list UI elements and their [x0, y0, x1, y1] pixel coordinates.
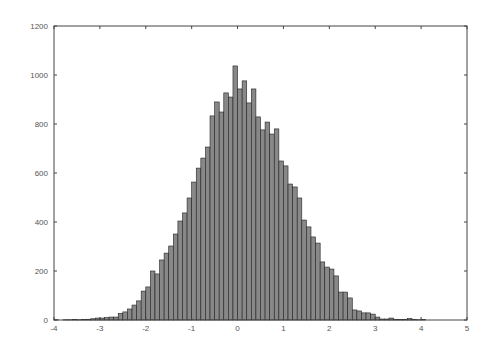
histogram-bar — [164, 253, 169, 320]
histogram-bar — [361, 313, 366, 320]
histogram-bar — [118, 313, 123, 320]
histogram-bar — [293, 187, 298, 320]
histogram-bar — [311, 237, 316, 320]
histogram-bar — [182, 213, 187, 320]
histogram-bar — [247, 103, 252, 320]
histogram-bar — [339, 292, 344, 320]
histogram-bar — [224, 93, 229, 320]
histogram-bar — [334, 276, 339, 320]
histogram-bar — [219, 112, 224, 320]
histogram-bar — [306, 227, 311, 320]
histogram-bar — [265, 122, 270, 320]
histogram-bar — [352, 310, 357, 320]
histogram-bar — [196, 168, 201, 320]
x-tick-label: -4 — [50, 324, 58, 333]
histogram-bar — [127, 309, 132, 320]
histogram-bar — [141, 291, 146, 320]
histogram-bar — [343, 292, 348, 320]
histogram-bar — [215, 102, 220, 320]
x-tick-label: 4 — [419, 324, 424, 333]
x-tick-label: 5 — [465, 324, 470, 333]
histogram-bar — [228, 97, 233, 320]
x-tick-label: -2 — [142, 324, 150, 333]
y-tick-label: 400 — [35, 218, 49, 227]
histogram-bar — [192, 182, 197, 320]
histogram-bar — [288, 184, 293, 320]
histogram-bar — [210, 116, 215, 320]
x-tick-label: 0 — [235, 324, 240, 333]
histogram-bar — [169, 246, 174, 320]
histogram-bar — [155, 274, 160, 320]
histogram-bar — [329, 269, 334, 320]
histogram-bar — [274, 129, 279, 320]
x-tick-label: 2 — [327, 324, 332, 333]
y-tick-label: 0 — [44, 316, 49, 325]
y-tick-label: 1000 — [30, 71, 48, 80]
histogram-bar — [187, 198, 192, 320]
histogram-bar — [242, 81, 247, 320]
y-tick-label: 1200 — [30, 22, 48, 31]
histogram-bar — [279, 161, 284, 320]
x-tick-label: 3 — [373, 324, 378, 333]
histogram-bar — [205, 147, 210, 320]
histogram-bar — [348, 298, 353, 320]
x-tick-label: -1 — [188, 324, 196, 333]
histogram-bar — [357, 311, 362, 320]
x-tick-label: 1 — [281, 324, 286, 333]
histogram-bar — [123, 312, 128, 320]
histogram-bar — [283, 166, 288, 320]
histogram-bar — [150, 271, 155, 320]
histogram-bars — [54, 66, 426, 320]
histogram-bar — [251, 89, 256, 320]
histogram-bar — [178, 221, 183, 320]
histogram-chart: -4-3-2-1012345 020040060080010001200 — [0, 0, 489, 354]
y-tick-label: 800 — [35, 120, 49, 129]
histogram-bar — [238, 89, 243, 320]
y-tick-label: 200 — [35, 267, 49, 276]
histogram-bar — [160, 260, 165, 320]
histogram-bar — [261, 130, 266, 320]
y-tick-label: 600 — [35, 169, 49, 178]
histogram-bar — [366, 313, 371, 320]
histogram-bar — [233, 66, 238, 320]
x-tick-label: -3 — [96, 324, 104, 333]
histogram-bar — [325, 267, 330, 320]
histogram-bar — [297, 198, 302, 320]
histogram-bar — [146, 287, 151, 320]
histogram-bar — [320, 262, 325, 320]
histogram-bar — [173, 234, 178, 320]
histogram-bar — [302, 220, 307, 320]
histogram-bar — [316, 243, 321, 320]
histogram-bar — [132, 305, 137, 320]
histogram-bar — [270, 134, 275, 320]
histogram-bar — [137, 301, 142, 320]
histogram-bar — [371, 314, 376, 320]
histogram-bar — [256, 117, 261, 320]
histogram-bar — [201, 158, 206, 320]
